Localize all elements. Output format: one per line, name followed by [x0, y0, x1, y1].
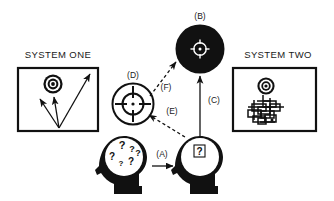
panel-title-system-two: SYSTEM TWO	[244, 49, 312, 60]
svg-text:?: ?	[135, 148, 141, 158]
maze-endpoint-dot	[271, 119, 274, 122]
node-confused-head: ? ? ? ? ? ?	[95, 136, 147, 194]
system-two-target-icon	[257, 77, 274, 94]
connector-e: (E)	[149, 106, 185, 137]
panel-system-one: SYSTEM ONE	[18, 49, 98, 131]
resolved-head-question-mark: ?	[196, 146, 202, 157]
system-one-target-icon	[43, 74, 62, 93]
node-filled-target: (B)	[176, 11, 225, 74]
node-resolved-head: ?	[171, 136, 223, 194]
diagram-canvas: SYSTEM ONE SYSTEM TWO	[0, 0, 334, 201]
svg-text:?: ?	[129, 144, 135, 154]
panel-title-system-one: SYSTEM ONE	[25, 49, 91, 60]
node-outline-crosshair: (D)	[113, 70, 154, 125]
svg-text:?: ?	[119, 139, 126, 151]
crosshair-center-dot	[131, 102, 134, 105]
label-b: (B)	[194, 11, 206, 21]
diagram-svg: SYSTEM ONE SYSTEM TWO	[0, 0, 334, 201]
svg-text:?: ?	[109, 151, 115, 162]
label-d: (D)	[127, 70, 139, 80]
svg-text:?: ?	[128, 156, 134, 167]
connector-a: (A)	[152, 149, 173, 166]
label-f: (F)	[161, 82, 172, 92]
label-c: (C)	[208, 95, 220, 105]
connector-f: (F)	[150, 62, 176, 96]
label-a: (A)	[156, 149, 168, 159]
connector-c: (C)	[200, 76, 220, 140]
label-e: (E)	[166, 106, 178, 116]
svg-text:?: ?	[119, 159, 124, 168]
panel-system-two: SYSTEM TWO	[233, 49, 316, 131]
